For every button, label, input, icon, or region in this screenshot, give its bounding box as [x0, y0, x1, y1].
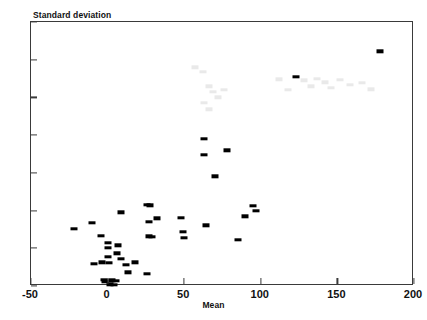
scatter-plot-figure: Standard deviation 010203040506070 Mean … [0, 0, 427, 320]
x-tick-label: 200 [404, 288, 422, 300]
x-tick-label: -50 [22, 288, 38, 300]
y-tick-label-group: 010203040506070 [0, 0, 427, 320]
x-tick-label: 0 [104, 288, 110, 300]
x-tick-label: 50 [177, 288, 189, 300]
x-axis-title: Mean [0, 300, 427, 310]
x-tick-label: 150 [327, 288, 345, 300]
x-tick-label: 100 [251, 288, 269, 300]
